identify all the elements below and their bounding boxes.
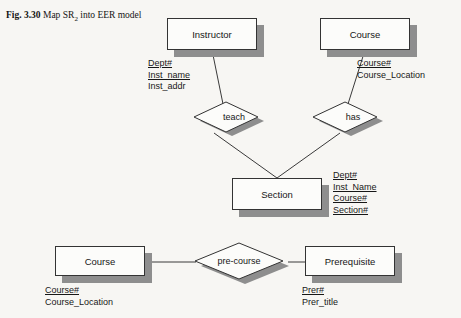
attribute-item: Dept#	[148, 58, 190, 70]
relationship-has-label: has	[313, 112, 393, 122]
relationship-teach-label: teach	[194, 112, 274, 122]
section-attributes: Dept# Inst_Name Course# Section#	[333, 170, 377, 216]
instructor-attributes: Dept# Inst_name Inst_addr	[148, 58, 190, 93]
relationship-pre-course-label: pre-course	[190, 256, 288, 266]
prerequisite-attributes: Prer# Prer_title	[302, 285, 338, 308]
attribute-item: Course_Location	[357, 70, 425, 82]
attribute-item: Course#	[45, 285, 113, 297]
attribute-item: Prer#	[302, 285, 338, 297]
line-instructor-teach	[212, 50, 223, 104]
entity-section[interactable]: Section	[232, 178, 322, 210]
attribute-item: Course#	[333, 193, 377, 205]
entity-prerequisite[interactable]: Prerequisite	[305, 246, 395, 276]
course-top-attributes: Course# Course_Location	[357, 58, 425, 81]
figure-canvas: Fig. 3.30 Map SR2 into EER model Instruc…	[0, 0, 461, 318]
course-bottom-attributes: Course# Course_Location	[45, 285, 113, 308]
attribute-item: Inst_name	[148, 70, 190, 82]
entity-course-top[interactable]: Course	[320, 18, 410, 50]
entity-course-bottom[interactable]: Course	[55, 246, 145, 276]
entity-course-top-label: Course	[350, 29, 381, 40]
entity-prerequisite-label: Prerequisite	[325, 256, 376, 267]
attribute-item: Dept#	[333, 170, 377, 182]
entity-section-label: Section	[261, 189, 293, 200]
attribute-item: Inst_Name	[333, 182, 377, 194]
attribute-item: Prer_title	[302, 297, 338, 309]
entity-instructor-label: Instructor	[192, 29, 232, 40]
attribute-item: Section#	[333, 205, 377, 217]
entity-course-bottom-label: Course	[85, 256, 116, 267]
attribute-item: Inst_addr	[148, 81, 190, 93]
attribute-item: Course_Location	[45, 297, 113, 309]
entity-instructor[interactable]: Instructor	[167, 18, 257, 50]
attribute-item: Course#	[357, 58, 425, 70]
